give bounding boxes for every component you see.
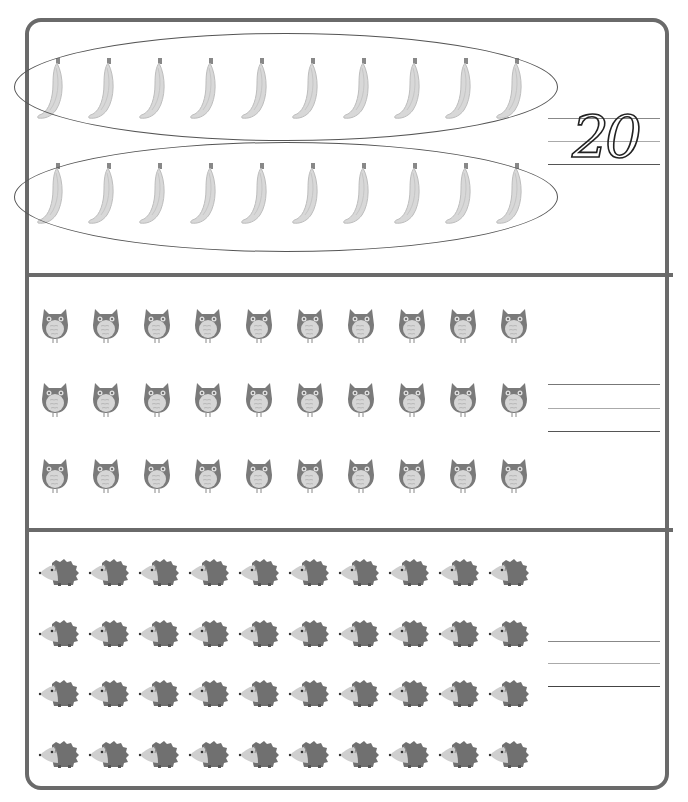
owl-icon xyxy=(40,305,70,345)
owl-icon xyxy=(448,455,478,495)
hedgehog-icon xyxy=(288,559,330,587)
owl-icon xyxy=(142,379,172,419)
hedgehog-icon xyxy=(188,559,230,587)
hedgehog-icon xyxy=(38,680,80,708)
hedgehog-icon xyxy=(338,559,380,587)
hedgehog-icon xyxy=(288,680,330,708)
hedgehog-icon xyxy=(388,680,430,708)
owl-icon xyxy=(91,455,121,495)
hedgehog-icon xyxy=(138,680,180,708)
owl-icon xyxy=(142,305,172,345)
hedgehog-icon xyxy=(338,680,380,708)
group-circle-2 xyxy=(14,142,558,252)
hedgehog-icon xyxy=(438,620,480,648)
owl-icon xyxy=(448,379,478,419)
hedgehog-icon xyxy=(388,620,430,648)
hedgehog-icon xyxy=(238,620,280,648)
owl-icon xyxy=(499,305,529,345)
owl-icon xyxy=(295,305,325,345)
owl-icon xyxy=(346,379,376,419)
hedgehog-icon xyxy=(38,741,80,769)
owl-icon xyxy=(40,379,70,419)
owl-icon xyxy=(499,379,529,419)
owl-icon xyxy=(193,305,223,345)
hedgehog-icon xyxy=(188,741,230,769)
hedgehog-icon xyxy=(238,680,280,708)
hedgehog-icon xyxy=(238,741,280,769)
owl-icon xyxy=(397,305,427,345)
hedgehog-icon xyxy=(138,741,180,769)
owl-icon xyxy=(40,455,70,495)
hedgehog-icon xyxy=(88,559,130,587)
hedgehog-icon xyxy=(188,620,230,648)
hedgehog-icon xyxy=(488,680,530,708)
owl-icon xyxy=(346,455,376,495)
hedgehog-icon xyxy=(38,559,80,587)
owl-icon xyxy=(142,455,172,495)
owl-icon xyxy=(397,455,427,495)
owl-icon xyxy=(91,379,121,419)
hedgehog-icon xyxy=(388,741,430,769)
hedgehog-icon xyxy=(88,620,130,648)
owl-icon xyxy=(244,455,274,495)
hedgehog-icon xyxy=(38,620,80,648)
answer-numeral: 20 xyxy=(572,108,638,166)
hedgehog-icon xyxy=(88,741,130,769)
hedgehog-icon xyxy=(288,741,330,769)
hedgehog-icon xyxy=(488,620,530,648)
hedgehog-icon xyxy=(338,620,380,648)
owl-icon xyxy=(244,379,274,419)
owl-icon xyxy=(295,379,325,419)
section-divider-1 xyxy=(25,273,673,277)
hedgehog-icon xyxy=(138,559,180,587)
hedgehog-icon xyxy=(288,620,330,648)
owl-icon xyxy=(193,455,223,495)
hedgehog-icon xyxy=(338,741,380,769)
owl-icon xyxy=(346,305,376,345)
owl-icon xyxy=(499,455,529,495)
owl-icon xyxy=(448,305,478,345)
section-divider-2 xyxy=(25,528,673,532)
owl-icon xyxy=(244,305,274,345)
hedgehog-icon xyxy=(438,741,480,769)
owl-icon xyxy=(397,379,427,419)
hedgehog-icon xyxy=(88,680,130,708)
hedgehog-icon xyxy=(138,620,180,648)
owl-icon xyxy=(295,455,325,495)
hedgehog-icon xyxy=(438,680,480,708)
hedgehog-icon xyxy=(188,680,230,708)
owl-icon xyxy=(193,379,223,419)
hedgehog-icon xyxy=(488,559,530,587)
hedgehog-icon xyxy=(388,559,430,587)
owl-icon xyxy=(91,305,121,345)
hedgehog-icon xyxy=(488,741,530,769)
group-circle-1 xyxy=(14,33,558,141)
hedgehog-icon xyxy=(438,559,480,587)
hedgehog-icon xyxy=(238,559,280,587)
